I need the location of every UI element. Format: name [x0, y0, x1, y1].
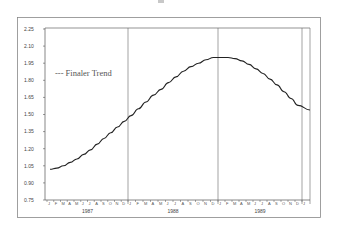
trend-chart: 2.252.101.951.801.651.501.351.201.050.90… [0, 0, 348, 236]
month-tick-label: S [102, 201, 105, 206]
month-tick-label: F [226, 201, 229, 206]
month-tick-label: M [62, 201, 65, 206]
month-tick-label: J [82, 201, 84, 206]
month-tick-label: J [261, 201, 263, 206]
year-label: 1987 [82, 208, 93, 214]
month-tick-label: D [212, 201, 215, 206]
y-tick-label: 1.65 [24, 94, 34, 100]
year-label: 1988 [167, 208, 178, 214]
y-tick-label: 1.05 [24, 163, 34, 169]
month-tick-label: M [159, 201, 162, 206]
outer-frame [18, 18, 321, 218]
month-tick-label: J [48, 201, 50, 206]
y-tick-label: 2.10 [24, 43, 34, 49]
plot-area [45, 28, 310, 204]
month-tick-label: J [129, 201, 131, 206]
y-tick-label: 1.50 [24, 111, 34, 117]
year-label: 1989 [254, 208, 265, 214]
month-tick-label: A [240, 201, 243, 206]
y-tick-label: 1.95 [24, 60, 34, 66]
y-tick-label: 1.35 [24, 128, 34, 134]
month-tick-label: A [68, 201, 71, 206]
month-tick-label: J [303, 201, 305, 206]
y-axis: 2.252.101.951.801.651.501.351.201.050.90… [24, 26, 45, 203]
y-tick-label: 2.25 [24, 26, 34, 32]
month-tick-label: J [174, 201, 176, 206]
month-tick-label: F [55, 201, 58, 206]
month-tick-label: J [167, 201, 169, 206]
month-tick-label: A [182, 201, 185, 206]
month-tick-label: D [122, 201, 125, 206]
month-tick-label: M [75, 201, 78, 206]
month-tick-label: J [219, 201, 221, 206]
month-tick-label: D [296, 201, 299, 206]
month-tick-label: A [152, 201, 155, 206]
month-tick-label: A [268, 201, 271, 206]
month-tick-label: J [89, 201, 91, 206]
y-tick-label: 0.75 [24, 197, 34, 203]
month-tick-label: J [254, 201, 256, 206]
month-tick-label: F [137, 201, 140, 206]
month-tick-label: O [197, 201, 200, 206]
x-axis: JFMAMJJASONDJFMAMJJASONDJFMAMJJASONDJ198… [47, 200, 305, 214]
y-tick-label: 1.20 [24, 146, 34, 152]
legend-finaler-trend: --- Finaler Trend [55, 68, 112, 78]
month-tick-label: O [282, 201, 285, 206]
month-tick-label: S [189, 201, 192, 206]
month-tick-label: A [95, 201, 98, 206]
y-tick-label: 0.90 [24, 180, 34, 186]
month-tick-label: N [204, 201, 207, 206]
month-tick-label: S [275, 201, 278, 206]
month-tick-label: N [289, 201, 292, 206]
month-tick-label: N [116, 201, 119, 206]
month-tick-label: O [109, 201, 112, 206]
month-tick-label: M [247, 201, 250, 206]
month-tick-label: M [144, 201, 147, 206]
month-tick-label: M [233, 201, 236, 206]
y-tick-label: 1.80 [24, 77, 34, 83]
